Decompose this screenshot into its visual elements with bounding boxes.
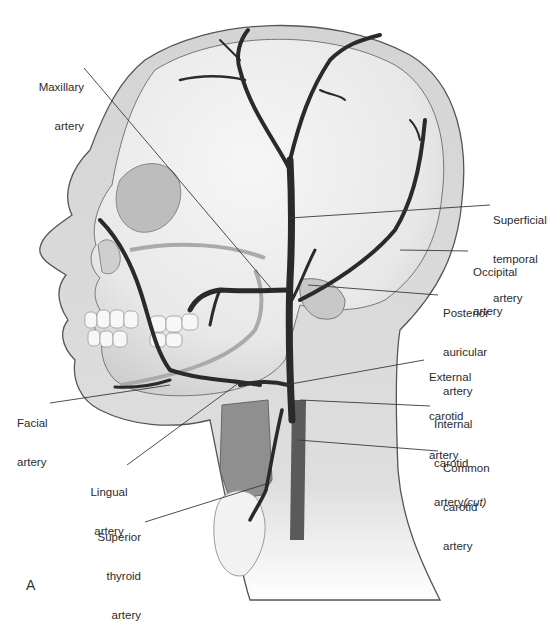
label-line: Occipital xyxy=(473,266,517,279)
nasal-cavity xyxy=(98,240,120,274)
panel-letter: A xyxy=(26,577,35,593)
label-facial-artery: Facial artery xyxy=(17,391,48,482)
label-line: Facial xyxy=(17,417,48,430)
label-line: Posterior xyxy=(443,307,489,320)
label-line: External xyxy=(429,371,471,384)
label-line: Maxillary xyxy=(38,81,84,94)
label-common-carotid-artery: Common carotid artery xyxy=(443,436,490,566)
label-line: Lingual xyxy=(88,486,130,499)
label-line: artery xyxy=(443,540,490,553)
label-line: thyroid xyxy=(95,570,141,583)
label-line: artery xyxy=(38,120,84,133)
label-line: carotid xyxy=(443,501,490,514)
label-line: Internal xyxy=(434,418,486,431)
label-line: artery xyxy=(95,609,141,622)
label-maxillary-artery: Maxillary artery xyxy=(38,55,84,146)
label-line: artery xyxy=(17,456,48,469)
label-line: Superior xyxy=(95,531,141,544)
label-superior-thyroid-artery: Superior thyroid artery xyxy=(95,505,141,625)
label-line: Superficial xyxy=(493,214,547,227)
label-line: Common xyxy=(443,462,490,475)
